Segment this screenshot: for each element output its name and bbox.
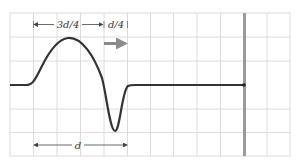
wave-diagram: 3d/4 d/4 d xyxy=(0,0,298,168)
label-d: d xyxy=(75,140,81,151)
diagram-canvas: 3d/4 d/4 d xyxy=(0,0,298,168)
label-3d4: 3d/4 xyxy=(57,19,80,30)
dimension-d4: d/4 xyxy=(104,19,128,30)
string-end-dot xyxy=(242,83,246,87)
label-d4: d/4 xyxy=(108,19,124,30)
dimension-d: d xyxy=(34,140,127,151)
dimension-3d4: 3d/4 xyxy=(34,19,103,30)
